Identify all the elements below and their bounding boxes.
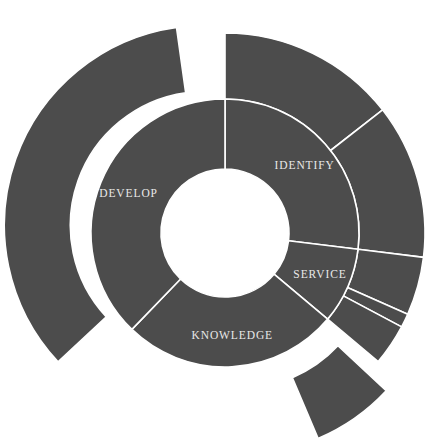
sunburst-chart: IDENTIFYSERVICEKNOWLEDGEDEVELOP (0, 0, 440, 448)
sunburst-svg: IDENTIFYSERVICEKNOWLEDGEDEVELOP (0, 0, 440, 448)
